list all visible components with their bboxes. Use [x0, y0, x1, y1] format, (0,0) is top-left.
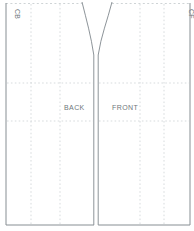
center-front-label: CF: [188, 9, 194, 19]
front-piece: CF FRONT: [98, 2, 194, 225]
back-piece-label: BACK: [64, 104, 85, 111]
pattern-draft-canvas: CB BACK CF FRONT: [0, 0, 194, 231]
center-back-label: CB: [14, 9, 21, 19]
back-piece: CB BACK: [6, 2, 94, 225]
front-piece-label: FRONT: [112, 104, 138, 111]
back-side-seam-curve: [82, 2, 94, 225]
pattern-drawing: CB BACK CF FRONT: [0, 0, 194, 231]
front-side-seam-curve: [98, 2, 112, 225]
